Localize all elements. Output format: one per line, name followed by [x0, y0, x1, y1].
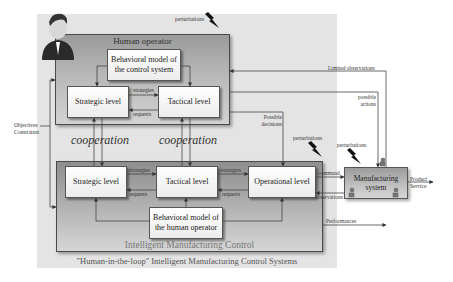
label-limited-observations: Limited observations: [328, 65, 375, 72]
label-possible: possible: [348, 94, 376, 101]
label-strategies-imc-1: strategies: [129, 167, 150, 174]
lightning-icon-top: [205, 12, 219, 28]
lightning-icon-mid: [308, 141, 322, 157]
label-requests-imc-2: requests: [222, 191, 240, 198]
label-requests-human: requests: [133, 111, 151, 118]
lightning-icon-mfg: [347, 148, 361, 164]
label-possible-decisions-1: Possible: [252, 114, 282, 121]
label-possible-decisions-2: decisions: [252, 121, 282, 128]
connector-lines: [0, 0, 453, 282]
label-product: Product: [410, 176, 427, 183]
label-strategies-human: strategies: [133, 87, 154, 94]
label-command: command: [318, 170, 340, 177]
label-constraints: Constraints: [14, 129, 39, 136]
label-observations: observations: [315, 194, 343, 201]
label-actions: actions: [348, 101, 376, 108]
label-requests-imc-1: requests: [129, 191, 147, 198]
label-strategies-imc-2: strategies: [220, 167, 241, 174]
label-perturbations-top: perturbations: [175, 16, 204, 23]
label-perturbations-mid: perturbations: [293, 135, 322, 142]
label-objectives: Objectives: [14, 122, 38, 129]
label-perturbations-mfg: perturbations: [337, 142, 366, 149]
label-performances: Performances: [326, 218, 356, 225]
label-service: Service: [410, 183, 427, 190]
person-avatar-icon: [42, 14, 74, 60]
